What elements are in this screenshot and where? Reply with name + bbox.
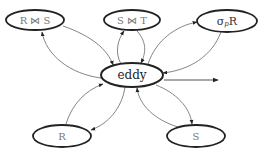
eddy-label: eddy (117, 68, 146, 82)
eddy-diagram: R ⋈ S S ⋈ T σpR eddy R S (0, 0, 259, 153)
edge-eddy-to-stjoin (117, 31, 124, 64)
edge-stjoin-to-eddy (137, 31, 145, 63)
node-label: R (58, 131, 66, 142)
node-s: S (167, 125, 225, 147)
edge-eddy-to-selectr (148, 22, 197, 64)
edge-eddy-to-rsjoin (42, 32, 101, 78)
node-eddy: eddy (101, 63, 163, 87)
edge-eddy-to-s (156, 85, 192, 124)
node-label: S (193, 131, 200, 142)
edge-rsjoin-to-eddy (63, 26, 113, 65)
node-select-r: σpR (197, 10, 257, 32)
node-label: R ⋈ S (20, 15, 51, 26)
node-r: R (33, 125, 91, 147)
node-st-join: S ⋈ T (104, 10, 160, 30)
node-label: S ⋈ T (117, 15, 147, 26)
edge-selectr-to-eddy (163, 32, 221, 73)
edge-r-to-eddy (66, 84, 103, 124)
edge-eddy-to-r (91, 87, 125, 130)
relation-name: R (229, 15, 238, 28)
node-rs-join: R ⋈ S (6, 10, 64, 30)
